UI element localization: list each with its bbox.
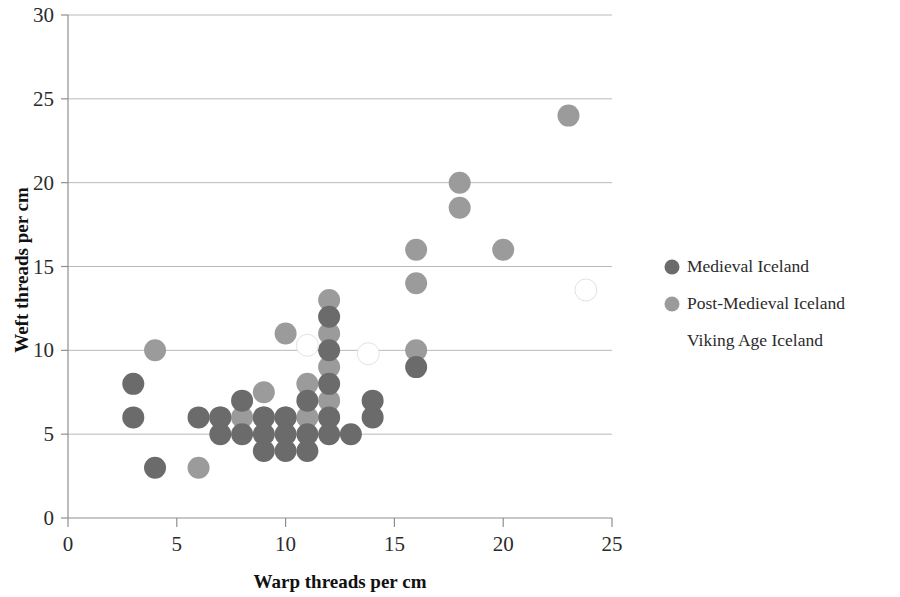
x-tickmarks-group [68,518,612,527]
legend-item-1[interactable]: Post-Medieval Iceland [665,293,846,313]
data-point-1-0 [144,339,166,361]
data-point-0-0 [122,373,144,395]
data-point-1-1 [188,457,210,479]
data-point-1-18 [449,197,471,219]
legend-item-2[interactable]: Viking Age Iceland [665,330,824,350]
gridlines-group [68,15,612,434]
data-point-1-19 [492,239,514,261]
legend-marker-0 [665,260,680,275]
x-tick-label-0: 0 [63,532,74,556]
data-point-1-4 [253,381,275,403]
data-point-0-25 [405,356,427,378]
data-point-0-19 [318,373,340,395]
data-point-0-16 [296,440,318,462]
legend-marker-2 [665,334,680,349]
y-tick-label-20: 20 [33,171,54,195]
data-point-0-10 [253,440,275,462]
legend-label-1: Post-Medieval Iceland [687,293,845,313]
x-axis-title: Warp threads per cm [254,571,427,592]
legend: Medieval IcelandPost-Medieval IcelandVik… [665,256,846,350]
legend-label-2: Viking Age Iceland [687,330,823,350]
y-axis-title: Weft threads per cm [11,187,32,353]
y-tick-label-15: 15 [33,255,54,279]
scatter-chart: 051015202530 0510152025 Weft threads per… [0,0,900,597]
data-point-0-22 [340,423,362,445]
data-point-0-14 [296,390,318,412]
data-point-0-7 [231,423,253,445]
y-tick-label-25: 25 [33,87,54,111]
x-tick-label-5: 5 [172,532,183,556]
data-point-2-0 [296,334,318,356]
y-tickmarks-group [61,15,68,518]
x-tick-label-20: 20 [493,532,514,556]
data-points-layer [122,105,597,479]
x-tick-label-25: 25 [602,532,623,556]
x-tick-label-15: 15 [384,532,405,556]
data-point-0-24 [362,406,384,428]
y-tick-labels-group: 051015202530 [33,3,54,530]
data-point-2-1 [357,343,379,365]
y-tick-label-5: 5 [44,422,55,446]
x-tick-label-10: 10 [275,532,296,556]
data-point-1-20 [557,105,579,127]
data-point-0-21 [318,423,340,445]
data-point-0-6 [231,390,253,412]
data-point-0-17 [318,306,340,328]
data-point-0-18 [318,339,340,361]
legend-marker-1 [665,297,680,312]
data-point-0-13 [275,440,297,462]
data-point-0-5 [209,423,231,445]
y-tick-label-30: 30 [33,3,54,27]
data-point-0-2 [144,457,166,479]
data-point-2-2 [575,279,597,301]
x-tick-labels-group: 0510152025 [63,532,623,556]
data-point-0-3 [188,406,210,428]
y-tick-label-10: 10 [33,338,54,362]
data-point-1-15 [405,272,427,294]
legend-item-0[interactable]: Medieval Iceland [665,256,810,276]
y-tick-label-0: 0 [44,506,55,530]
data-point-1-14 [405,239,427,261]
legend-label-0: Medieval Iceland [687,256,809,276]
data-point-1-17 [449,172,471,194]
data-point-0-1 [122,406,144,428]
data-point-1-6 [275,323,297,345]
chart-canvas: 051015202530 0510152025 Weft threads per… [0,0,900,597]
